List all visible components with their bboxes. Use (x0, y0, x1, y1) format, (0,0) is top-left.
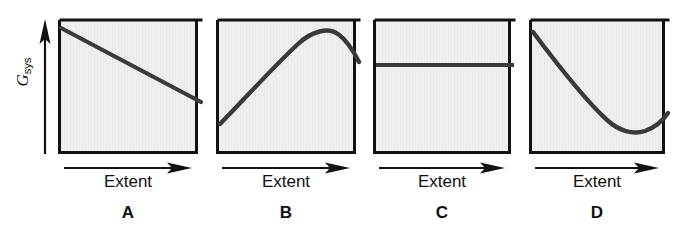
panel-a-plot-area (58, 20, 198, 154)
x-axis-caption-b: Extent (216, 172, 356, 192)
panel-d-curve (529, 18, 671, 156)
figure-panel-grid: Gsys Extent A (0, 0, 683, 230)
panel-letter-c: C (373, 203, 511, 223)
panel-a-curve (58, 18, 204, 156)
panel-b: Extent B (216, 20, 356, 154)
y-axis-label-symbol: G (13, 74, 32, 86)
panel-letter-b: B (216, 203, 356, 223)
panel-c-plot-area (373, 20, 511, 154)
y-axis-group: Gsys (8, 18, 56, 154)
x-axis-caption-c: Extent (373, 172, 511, 192)
panel-b-plot-area (216, 20, 356, 154)
y-axis-label-subscript: sys (21, 58, 33, 75)
panel-b-curve (216, 18, 362, 156)
x-axis-caption-a: Extent (58, 172, 198, 192)
x-axis-caption-d: Extent (529, 172, 665, 192)
panel-a: Extent A (58, 20, 198, 154)
panel-c: Extent C (373, 20, 511, 154)
panel-c-curve (373, 18, 517, 156)
up-arrow-icon (38, 18, 52, 154)
panel-letter-d: D (529, 203, 665, 223)
panel-d: Extent D (529, 20, 665, 154)
y-axis-label: Gsys (13, 29, 33, 115)
panel-letter-a: A (58, 203, 198, 223)
panel-d-plot-area (529, 20, 665, 154)
